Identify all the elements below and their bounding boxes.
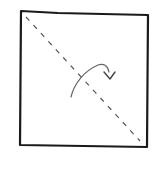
arrowhead-icon bbox=[104, 72, 115, 79]
diagonal-fold-line bbox=[26, 17, 140, 141]
origami-diagram bbox=[0, 0, 157, 170]
fold-arrow-icon bbox=[71, 64, 109, 97]
paper-square-outline bbox=[20, 11, 148, 147]
